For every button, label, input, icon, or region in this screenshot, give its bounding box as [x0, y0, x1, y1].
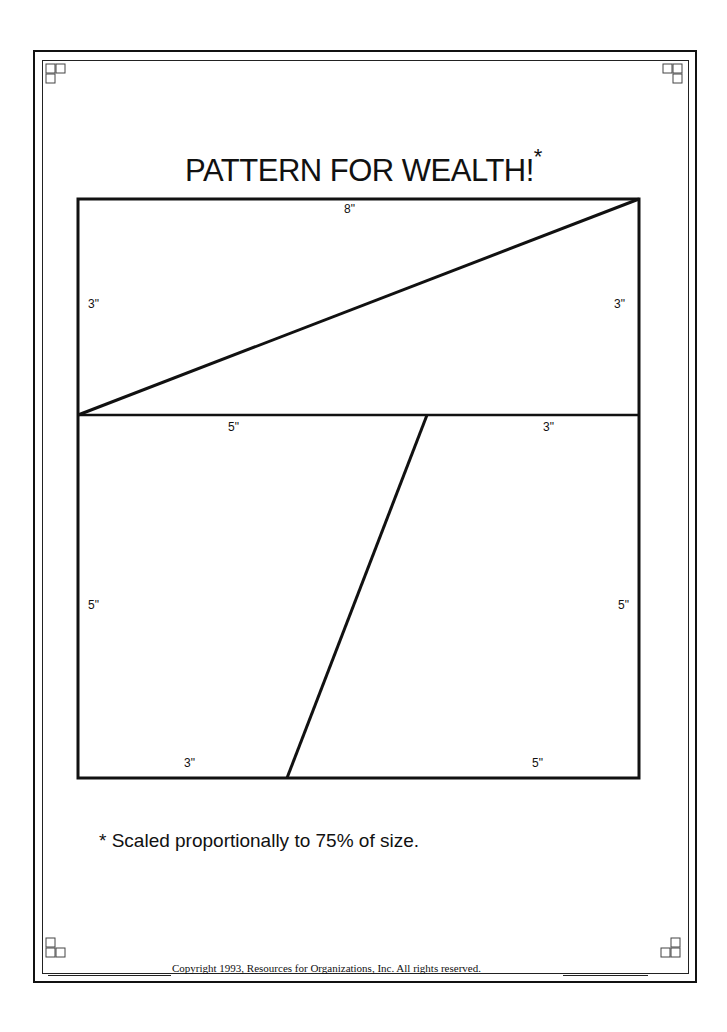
- label-middle-right-width: 3": [543, 420, 554, 434]
- label-top-width: 8": [344, 202, 355, 216]
- label-lower-right-height: 5": [618, 598, 629, 612]
- copyright-notice: Copyright 1993, Resources for Organizati…: [172, 962, 481, 974]
- label-bottom-right-width: 5": [532, 756, 543, 770]
- label-lower-left-height: 5": [88, 598, 99, 612]
- scale-footnote: * Scaled proportionally to 75% of size.: [99, 830, 419, 852]
- slanted-cut-line: [287, 415, 427, 778]
- footer-rule-right: [563, 975, 648, 976]
- pattern-outline: [78, 199, 639, 778]
- label-upper-left-height: 3": [88, 297, 99, 311]
- label-upper-right-height: 3": [614, 297, 625, 311]
- footer-rule-left: [48, 975, 171, 976]
- label-middle-left-width: 5": [228, 420, 239, 434]
- diagonal-cut-line: [78, 199, 639, 415]
- label-bottom-left-width: 3": [184, 756, 195, 770]
- pattern-diagram: [0, 0, 727, 1032]
